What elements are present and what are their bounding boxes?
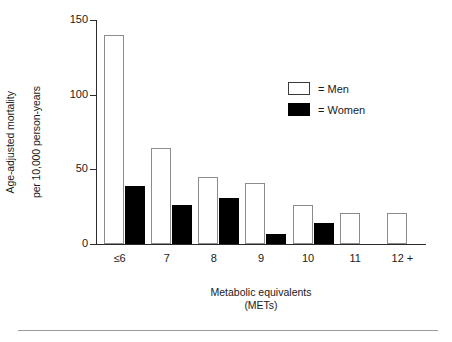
bar-women-9 (266, 234, 286, 244)
x-axis-title-line1: Metabolic equivalents (211, 286, 312, 298)
x-axis-tick-label: 9 (237, 252, 284, 265)
bar-group (151, 20, 192, 244)
x-axis-title: Metabolic equivalents (METs) (96, 286, 426, 312)
y-axis-tick-mark (90, 169, 96, 170)
bar-men-10 (293, 205, 313, 244)
white-square-icon (288, 82, 310, 95)
x-axis-title-line2: (METs) (96, 299, 426, 312)
plot-area (96, 20, 426, 244)
x-axis-tick-label: 7 (143, 252, 190, 265)
y-axis-tick-mark (90, 20, 96, 21)
black-square-icon (288, 103, 310, 116)
bar-group (245, 20, 286, 244)
x-axis-tick-label: 11 (332, 252, 379, 265)
legend-item: = Women (288, 99, 408, 120)
bar-men-12 + (387, 213, 407, 244)
bar-group (198, 20, 239, 244)
x-axis-tick-label: 8 (190, 252, 237, 265)
y-axis-tick-label: 0 (82, 238, 88, 249)
x-axis-tick-label: 10 (285, 252, 332, 265)
bar-women-≤6 (125, 186, 145, 244)
bar-men-8 (198, 177, 218, 244)
chart-legend: = Men= Women (288, 78, 408, 120)
y-axis-tick-mark (90, 244, 96, 245)
bar-group (340, 20, 381, 244)
y-axis-tick-label: 50 (76, 163, 88, 174)
y-axis-line (96, 20, 97, 245)
chart-figure: Age-adjusted mortality per 10,000 person… (0, 0, 452, 342)
legend-item-label: = Women (318, 104, 365, 116)
bar-women-8 (219, 198, 239, 244)
legend-item-label: = Men (318, 83, 349, 95)
bar-women-10 (314, 223, 334, 244)
x-axis-tick-label: 12 + (379, 252, 426, 265)
y-axis-tick-mark (90, 95, 96, 96)
bar-women-7 (172, 205, 192, 244)
x-axis-line (96, 244, 426, 245)
bar-group (387, 20, 428, 244)
y-axis-title: Age-adjusted mortality per 10,000 person… (0, 40, 56, 262)
bar-men-7 (151, 148, 171, 244)
y-axis-tick-label: 100 (70, 89, 88, 100)
y-axis-title-line1: Age-adjusted mortality (4, 91, 16, 193)
x-axis-tick-label: ≤6 (96, 252, 143, 265)
bar-group (293, 20, 334, 244)
y-axis-title-wrapper: Age-adjusted mortality per 10,000 person… (0, 0, 46, 262)
x-axis-tick-labels: ≤6789101112 + (96, 252, 426, 272)
bar-group (104, 20, 145, 244)
legend-item: = Men (288, 78, 408, 99)
y-axis-tick-label: 150 (70, 14, 88, 25)
bar-men-11 (340, 213, 360, 244)
y-axis-title-line2: per 10,000 person-years (30, 86, 42, 198)
bar-men-≤6 (104, 35, 124, 244)
bar-men-9 (245, 183, 265, 244)
y-axis-tick-labels: 050100150 (52, 20, 88, 245)
footer-divider (18, 330, 438, 331)
